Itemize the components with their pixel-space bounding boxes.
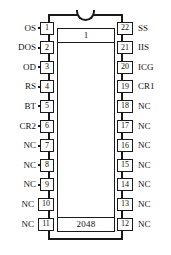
chip-pinout-diagram: 1 2048 OS1DOS2OD3RS4BT5CR26NC7NC8NC9NC10… [0,0,171,255]
pin-number-box: 10 [38,198,54,211]
pin-14[interactable]: 14NC [117,178,171,192]
pin-signal-label: NC [138,141,151,150]
pin-10[interactable]: NC10 [4,197,54,211]
pin-number-box: 7 [40,139,54,152]
pin-signal-label: NC [23,161,36,170]
pin-signal-label: IIS [138,43,149,52]
pin-signal-label: BT [24,102,36,111]
pin-4[interactable]: RS4 [4,80,54,94]
pin-signal-label: NC [138,220,151,229]
pin-number-box: 13 [117,198,133,211]
pin-21[interactable]: 21IIS [117,41,171,55]
pin-7[interactable]: NC7 [4,139,54,153]
pin-number-box: 17 [117,120,133,133]
pin-3[interactable]: OD3 [4,60,54,74]
pin-number-box: 21 [117,41,133,54]
pin-8[interactable]: NC8 [4,158,54,172]
pin-signal-label: CR2 [19,122,36,131]
pin-number-box: 15 [117,159,133,172]
pin-number-box: 1 [40,22,54,35]
pin-17[interactable]: 17NC [117,119,171,133]
pin-signal-label: NC [21,200,34,209]
pin-number-box: 11 [38,218,54,231]
pin-signal-label: DOS [18,43,36,52]
pin-16[interactable]: 16NC [117,139,171,153]
pin-signal-label: OS [24,24,36,33]
pin-signal-label: NC [138,122,151,131]
chip-inner-rectangle: 1 2048 [57,28,115,232]
pin-9[interactable]: NC9 [4,178,54,192]
pin-signal-label: NC [23,180,36,189]
pin-19[interactable]: 19CR1 [117,80,171,94]
pin-5[interactable]: BT5 [4,99,54,113]
pin-signal-label: NC [138,200,151,209]
pin-number-box: 4 [40,80,54,93]
pin-1[interactable]: OS1 [4,21,54,35]
pin-number-box: 18 [117,100,133,113]
pin-15[interactable]: 15NC [117,158,171,172]
pin-20[interactable]: 20ICG [117,60,171,74]
pin-18[interactable]: 18NC [117,99,171,113]
pin-signal-label: NC [138,161,151,170]
pin-signal-label: SS [138,24,148,33]
pin-signal-label: RS [25,82,36,91]
pin-number-box: 3 [40,61,54,74]
pin-number-box: 12 [117,218,133,231]
pin-number-box: 22 [117,22,133,35]
pin-number-box: 6 [40,120,54,133]
pin-signal-label: NC [138,102,151,111]
pin-2[interactable]: DOS2 [4,41,54,55]
pin-number-box: 2 [40,41,54,54]
pin-signal-label: OD [23,63,36,72]
pin-12[interactable]: 12NC [117,217,171,231]
pin-signal-label: NC [23,141,36,150]
pin-22[interactable]: 22SS [117,21,171,35]
body-marking-bottom: 2048 [58,217,114,231]
pin-number-box: 20 [117,61,133,74]
pin-signal-label: NC [138,180,151,189]
pin-13[interactable]: 13NC [117,197,171,211]
pin-signal-label: NC [21,220,34,229]
body-marking-top: 1 [58,29,114,43]
pin-number-box: 8 [40,159,54,172]
pin-11[interactable]: NC11 [4,217,54,231]
pin-number-box: 9 [40,178,54,191]
pin-number-box: 5 [40,100,54,113]
pin-signal-label: ICG [138,63,154,72]
pin-6[interactable]: CR26 [4,119,54,133]
pin-number-box: 14 [117,178,133,191]
pin-signal-label: CR1 [138,82,155,91]
pin-number-box: 19 [117,80,133,93]
pin-number-box: 16 [117,139,133,152]
